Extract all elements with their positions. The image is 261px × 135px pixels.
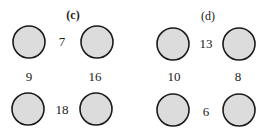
edge-weight: 9 bbox=[26, 69, 33, 85]
edge-weight: 16 bbox=[89, 69, 102, 85]
node-circle bbox=[80, 93, 112, 125]
edge-weight: 18 bbox=[56, 102, 69, 118]
panel-label: (c) bbox=[66, 8, 79, 23]
panel-label: (d) bbox=[201, 9, 215, 24]
node-circle bbox=[81, 26, 113, 58]
edge-weight: 10 bbox=[168, 69, 181, 85]
edge-weight: 8 bbox=[235, 69, 242, 85]
edge-weight: 7 bbox=[59, 34, 66, 50]
node-circle bbox=[157, 94, 189, 126]
node-circle bbox=[13, 26, 45, 58]
node-circle bbox=[223, 28, 255, 60]
diagram-canvas bbox=[0, 0, 261, 135]
node-circle bbox=[223, 94, 255, 126]
edge-weight: 6 bbox=[203, 104, 210, 120]
node-circle bbox=[157, 28, 189, 60]
edge-weight: 13 bbox=[200, 36, 213, 52]
node-circle bbox=[12, 93, 44, 125]
